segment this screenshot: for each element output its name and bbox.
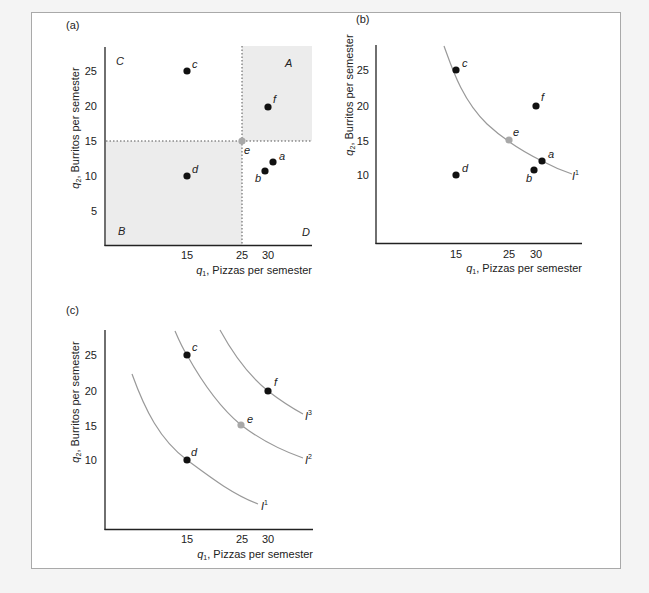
y-tick: 10	[85, 454, 97, 466]
curve-label-i1: I1	[261, 499, 268, 512]
x-tick: 15	[450, 248, 462, 260]
curve-label-i2: I2	[305, 453, 312, 466]
y-tick: 25	[357, 64, 369, 76]
panel-b: (b) 25 20 15 10 15 25 30 q1, Pizzas per …	[343, 13, 582, 275]
point-d	[452, 171, 459, 178]
panel-a-label: (a)	[66, 19, 79, 31]
panel-c-label: (c)	[66, 304, 79, 316]
point-d	[183, 172, 190, 179]
point-e	[505, 136, 512, 143]
x-tick: 30	[262, 533, 274, 545]
y-tick: 15	[85, 420, 97, 432]
point-f	[264, 103, 271, 110]
point-e	[237, 421, 244, 428]
region-label-c: C	[116, 55, 124, 67]
region-label-d: D	[302, 226, 310, 238]
indifference-curve-i3	[220, 330, 303, 414]
y-axis-label: q2, Burritos per semester	[343, 34, 356, 156]
x-tick: 25	[503, 248, 515, 260]
point-d	[183, 456, 190, 463]
y-tick: 20	[85, 100, 97, 112]
panel-b-label: (b)	[356, 13, 369, 25]
figure-canvas: (a) 25 20 15 10 5 15 25 30 q1, Pizzas pe…	[0, 0, 649, 593]
x-tick: 15	[181, 533, 193, 545]
point-a	[538, 157, 545, 164]
point-c	[452, 66, 459, 73]
point-label-f: f	[541, 91, 545, 103]
y-tick: 20	[357, 100, 369, 112]
point-label-e: e	[244, 144, 250, 156]
point-label-b: b	[255, 172, 261, 184]
point-c	[183, 67, 190, 74]
point-label-c: c	[462, 57, 468, 69]
y-tick: 10	[85, 170, 97, 182]
y-tick: 20	[85, 385, 97, 397]
point-label-a: a	[548, 148, 554, 160]
y-axis-label: q2, Burritos per semester	[69, 341, 82, 463]
point-f	[264, 387, 271, 394]
y-axis-label: q2, Burritos per semester	[69, 67, 82, 189]
point-label-d: d	[462, 162, 469, 174]
point-c	[183, 351, 190, 358]
y-tick: 15	[357, 135, 369, 147]
y-tick: 5	[91, 205, 97, 217]
point-b	[261, 167, 268, 174]
point-label-f: f	[274, 376, 278, 388]
y-tick: 25	[85, 65, 97, 77]
point-a	[269, 158, 276, 165]
y-tick: 25	[85, 349, 97, 361]
y-tick: 10	[357, 169, 369, 181]
curve-label-i3: I3	[305, 409, 312, 422]
region-b-shade	[106, 141, 242, 245]
region-label-a: A	[284, 57, 292, 69]
point-label-c: c	[192, 58, 198, 70]
x-axis-label: q1, Pizzas per semester	[196, 264, 312, 277]
panel-a: (a) 25 20 15 10 5 15 25 30 q1, Pizzas pe…	[66, 19, 312, 277]
x-axis-label: q1, Pizzas per semester	[197, 548, 313, 561]
x-tick: 30	[530, 248, 542, 260]
panel-c: (c) 25 20 15 10 15 25 30 q1, Pizzas per …	[66, 304, 313, 561]
x-tick: 25	[236, 249, 248, 261]
point-label-d: d	[191, 446, 198, 458]
point-label-e: e	[513, 126, 519, 138]
region-a-shade	[242, 46, 312, 141]
point-label-e: e	[247, 413, 253, 425]
x-axis-label: q1, Pizzas per semester	[466, 262, 582, 275]
point-label-d: d	[192, 163, 199, 175]
x-tick: 30	[262, 249, 274, 261]
x-tick: 15	[181, 249, 193, 261]
indifference-curve-i1	[132, 374, 258, 504]
point-label-c: c	[192, 341, 198, 353]
region-label-b: B	[118, 225, 125, 237]
curve-label-i1: I1	[572, 169, 579, 182]
point-f	[532, 102, 539, 109]
x-tick: 25	[236, 533, 248, 545]
point-label-a: a	[279, 150, 285, 162]
y-tick: 15	[85, 135, 97, 147]
point-label-b: b	[526, 172, 532, 184]
